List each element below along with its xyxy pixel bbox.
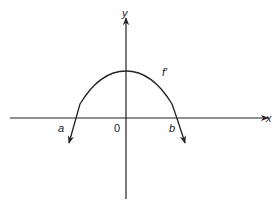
derivative-curve [69,71,185,143]
curve-label: f′ [162,66,168,78]
point-b-label: b [169,122,175,134]
origin-label: 0 [114,122,120,134]
x-axis-label: x [265,112,272,124]
y-axis-label: y [121,7,129,19]
graph-figure: y x 0 a b f′ [0,0,279,207]
point-a-label: a [58,122,64,134]
